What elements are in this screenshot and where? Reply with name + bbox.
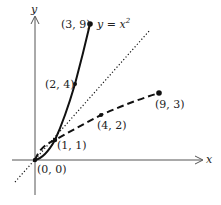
label-origin: (0, 0): [37, 163, 67, 176]
point-4-2: [99, 113, 103, 117]
label-3-9: (3, 9): [61, 18, 91, 31]
x-axis-label: x: [206, 153, 213, 166]
curve-label: y = x2: [96, 17, 131, 31]
label-9-3: (9, 3): [155, 98, 185, 111]
label-2-4: (2, 4): [45, 78, 75, 91]
y-axis-label: y: [30, 3, 38, 16]
point-origin: [33, 158, 37, 162]
function-graph: y x (0, 0) (1, 1) (2, 4) (3, 9) (4, 2) (…: [0, 0, 221, 205]
label-4-2: (4, 2): [97, 119, 127, 132]
label-1-1: (1, 1): [57, 139, 87, 152]
point-9-3: [156, 90, 162, 96]
